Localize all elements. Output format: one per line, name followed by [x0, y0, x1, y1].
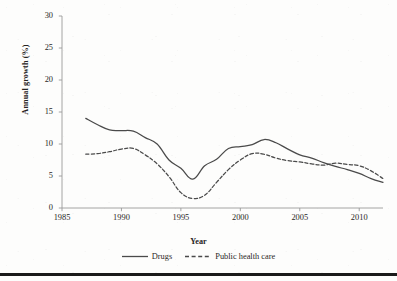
series-line-drugs: [86, 118, 383, 182]
x-tick-label: 1985: [42, 213, 82, 222]
figure-bottom-rule: [0, 273, 397, 276]
y-tick-label: 20: [29, 75, 53, 84]
y-tick-label: 25: [29, 43, 53, 52]
axis-ticks: [59, 16, 359, 211]
chart-figure: Annual growth (%) 051015202530 198519901…: [0, 0, 397, 281]
solid-line-swatch: [122, 253, 148, 260]
y-tick-label: 30: [29, 11, 53, 20]
chart-legend: Drugs Public health care: [0, 252, 397, 261]
x-tick-label: 2005: [280, 213, 320, 222]
legend-label-drugs: Drugs: [152, 252, 172, 261]
x-tick-label: 1990: [101, 213, 141, 222]
data-series: [86, 118, 383, 198]
y-tick-label: 5: [29, 171, 53, 180]
series-line-public-health-care: [86, 148, 383, 199]
y-tick-label: 15: [29, 107, 53, 116]
x-tick-label: 2010: [339, 213, 379, 222]
y-tick-label: 10: [29, 139, 53, 148]
axes: [62, 16, 383, 208]
x-tick-label: 1995: [161, 213, 201, 222]
dashed-line-swatch: [185, 253, 211, 260]
y-tick-label: 0: [29, 203, 53, 212]
legend-entry-drugs: Drugs: [122, 252, 172, 261]
x-axis-title: Year: [0, 237, 397, 246]
x-tick-label: 2000: [220, 213, 260, 222]
legend-label-public-health-care: Public health care: [215, 252, 275, 261]
legend-entry-public-health-care: Public health care: [185, 252, 275, 261]
